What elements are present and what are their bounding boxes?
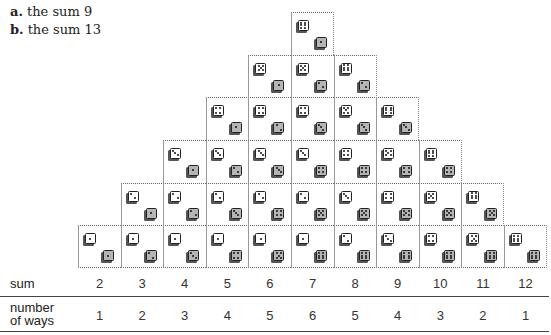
pip xyxy=(318,167,320,169)
pip xyxy=(318,214,320,216)
pip xyxy=(390,240,392,242)
pip xyxy=(493,214,495,216)
pip xyxy=(385,193,387,195)
pip xyxy=(347,197,349,199)
gray-die-3-icon xyxy=(188,250,199,261)
pip xyxy=(262,112,264,114)
pip xyxy=(432,152,434,154)
outcome-cell-sum-6 xyxy=(248,225,291,268)
pip xyxy=(361,167,363,169)
pip xyxy=(320,41,322,43)
pip xyxy=(217,238,219,240)
pip xyxy=(493,252,495,254)
pip xyxy=(304,197,306,199)
white-die-5-icon xyxy=(255,63,266,74)
pip xyxy=(258,65,260,67)
pip xyxy=(517,235,519,237)
gray-die-3-icon xyxy=(401,122,412,133)
pip xyxy=(489,257,491,259)
white-die-4-icon xyxy=(255,105,266,116)
pip xyxy=(390,154,392,156)
white-die-5-icon xyxy=(426,191,437,202)
pip xyxy=(471,235,473,237)
white-die-2-icon xyxy=(170,191,181,202)
pip xyxy=(403,171,405,173)
sum-label: sum xyxy=(10,276,35,291)
pip xyxy=(450,167,452,169)
ways-value: 1 xyxy=(504,308,547,323)
pip xyxy=(280,129,282,131)
pip xyxy=(450,171,452,173)
gray-die-4-icon xyxy=(316,165,327,176)
pip xyxy=(343,235,345,237)
gray-die-3-icon xyxy=(273,165,284,176)
pip xyxy=(475,197,477,199)
gray-die-5-icon xyxy=(486,208,497,219)
white-die-5-icon xyxy=(341,105,352,116)
outcome-cell-sum-7 xyxy=(291,55,334,98)
pip xyxy=(322,214,324,216)
outcome-cell-sum-2 xyxy=(78,225,121,268)
pip xyxy=(428,197,430,199)
pip xyxy=(304,65,306,67)
gray-die-2-icon xyxy=(146,250,157,261)
pip xyxy=(215,107,217,109)
pip xyxy=(343,69,345,71)
pip xyxy=(276,124,278,126)
pip xyxy=(177,154,179,156)
bottom-line xyxy=(0,331,549,332)
pip xyxy=(343,150,345,152)
pip xyxy=(408,129,410,131)
pip xyxy=(130,193,132,195)
pip xyxy=(300,27,302,29)
white-die-6-icon xyxy=(426,148,437,159)
outcome-cell-sum-5 xyxy=(206,183,249,226)
outcome-cell-sum-7 xyxy=(291,97,334,140)
pip xyxy=(300,112,302,114)
outcome-cell-sum-6 xyxy=(248,140,291,183)
gray-die-6-icon xyxy=(359,250,370,261)
gray-die-2-icon xyxy=(273,122,284,133)
white-die-6-icon xyxy=(383,105,394,116)
pip xyxy=(361,82,363,84)
pip xyxy=(322,257,324,259)
pip xyxy=(408,167,410,169)
ways-value: 3 xyxy=(163,308,206,323)
pip xyxy=(192,255,194,257)
pip xyxy=(432,193,434,195)
white-die-3-icon xyxy=(298,148,309,159)
ways-value: 2 xyxy=(121,308,164,323)
pip xyxy=(318,257,320,259)
pip xyxy=(535,252,537,254)
pip xyxy=(343,154,345,156)
ways-value: 3 xyxy=(419,308,462,323)
pip xyxy=(280,171,282,173)
white-die-1-icon xyxy=(298,233,309,244)
outcome-cell-sum-8 xyxy=(334,55,377,98)
pip xyxy=(192,169,194,171)
white-die-1-icon xyxy=(213,233,224,244)
sum-value: 10 xyxy=(419,276,462,291)
ways-label: number of ways xyxy=(10,301,54,327)
sum-value: 12 xyxy=(504,276,547,291)
white-die-1-icon xyxy=(255,233,266,244)
pip xyxy=(233,252,235,254)
pip xyxy=(262,65,264,67)
pip xyxy=(493,257,495,259)
pip xyxy=(304,27,306,29)
pip xyxy=(471,240,473,242)
pip xyxy=(150,212,152,214)
outcome-cell-sum-11 xyxy=(461,225,504,268)
gray-die-3-icon xyxy=(316,122,327,133)
ways-value: 5 xyxy=(334,308,377,323)
pip xyxy=(322,86,324,88)
pip xyxy=(432,197,434,199)
outcome-cell-sum-4 xyxy=(163,183,206,226)
gray-die-1-icon xyxy=(146,208,157,219)
gray-die-5-icon xyxy=(444,208,455,219)
pip xyxy=(132,238,134,240)
pip xyxy=(148,252,150,254)
white-die-1-icon xyxy=(170,233,181,244)
pip xyxy=(318,252,320,254)
pip xyxy=(365,129,367,131)
